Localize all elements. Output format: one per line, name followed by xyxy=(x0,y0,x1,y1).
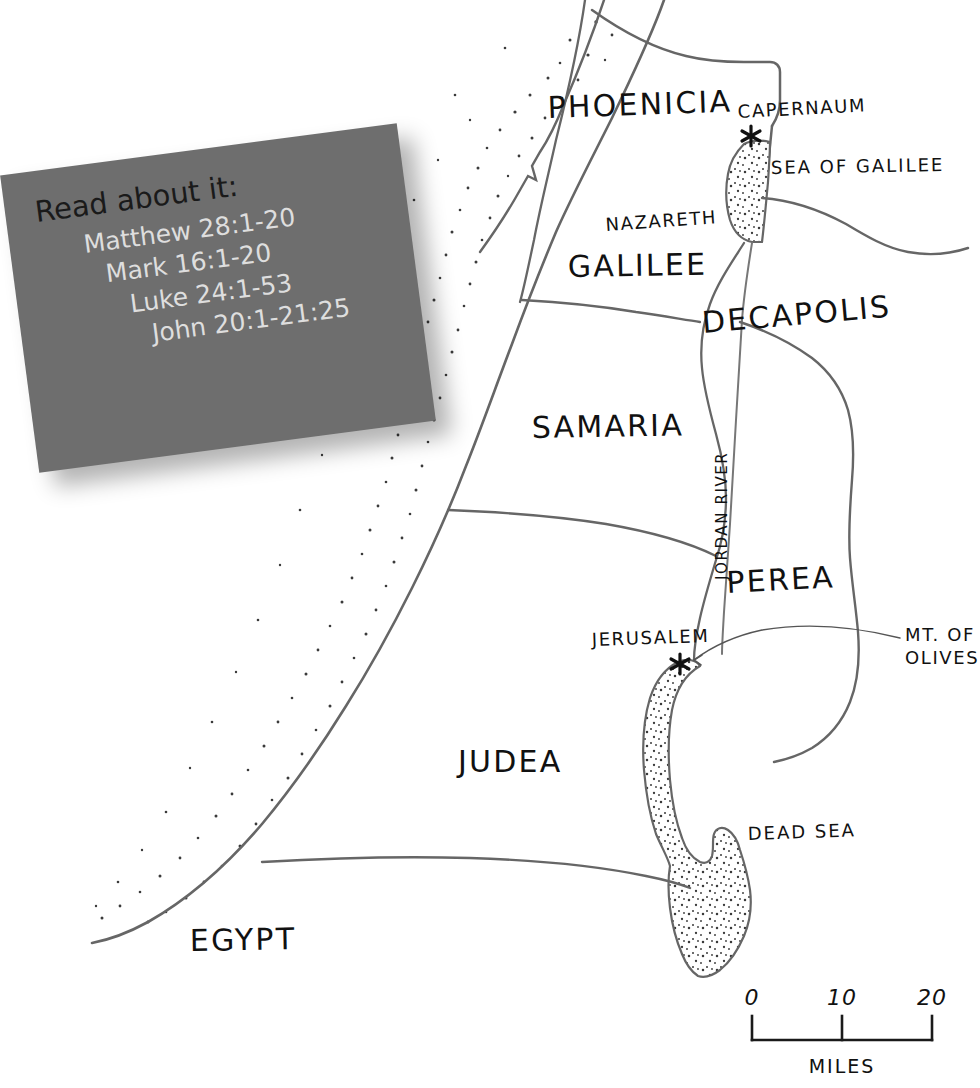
region-label-samaria: SAMARIA xyxy=(532,407,685,445)
scale-tick-label-10: 10 xyxy=(827,985,857,1010)
scale-tick-label-0: 0 xyxy=(745,985,760,1010)
samaria-south-border xyxy=(448,510,716,556)
scale-bar xyxy=(752,1016,932,1040)
scale-tick-label-20: 20 xyxy=(917,985,947,1010)
region-label-decapolis: DECAPOLIS xyxy=(701,289,893,340)
river-label-jordan-river: JORDAN RIVER xyxy=(713,452,731,581)
decapolis-north-border xyxy=(762,198,968,254)
region-label-egypt: EGYPT xyxy=(190,921,297,958)
sea-of-galilee xyxy=(726,141,770,242)
read-about-it-card: Read about it: Matthew 28:1-20 Mark 16:1… xyxy=(0,123,436,473)
landmark-label-mt-of-olives-line2: OLIVES xyxy=(905,647,979,668)
phoenicia-coast-spur xyxy=(480,0,604,252)
region-label-judea: JUDEA xyxy=(456,744,562,779)
read-about-it-card-inner: Read about it: Matthew 28:1-20 Mark 16:1… xyxy=(33,152,409,449)
perea-east-border xyxy=(740,322,859,762)
scale-unit-label: MILES xyxy=(809,1055,876,1077)
city-label-nazareth: NAZARETH xyxy=(605,206,718,235)
map-page: PHOENICIA GALILEE DECAPOLIS SAMARIA PERE… xyxy=(0,0,980,1088)
region-label-phoenicia: PHOENICIA xyxy=(547,84,733,125)
city-label-capernaum: CAPERNAUM xyxy=(737,94,866,122)
region-label-galilee: GALILEE xyxy=(568,247,708,284)
mt-of-olives-leader-line xyxy=(694,626,900,665)
landmark-label-mt-of-olives-line1: MT. OF xyxy=(905,624,975,645)
region-label-perea: PEREA xyxy=(726,559,836,600)
city-label-jerusalem: JERUSALEM xyxy=(590,625,709,650)
judea-south-border xyxy=(262,857,690,888)
galilee-south-border xyxy=(522,300,700,322)
dead-sea xyxy=(643,660,751,977)
water-label-sea-of-galilee: SEA OF GALILEE xyxy=(771,154,945,178)
water-label-dead-sea: DEAD SEA xyxy=(747,819,856,844)
